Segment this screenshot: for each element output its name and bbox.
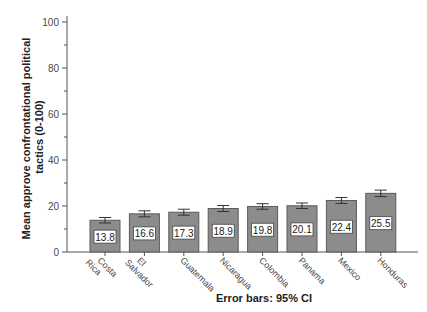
value-label: 17.3 xyxy=(174,228,194,239)
category-label: Nicaragua xyxy=(218,255,254,291)
bar-guatemala: 17.3 xyxy=(169,209,199,252)
bar-mexico: 22.4 xyxy=(326,197,356,252)
x-axis-title: Error bars: 95% CI xyxy=(216,292,312,304)
category-label: Honduras xyxy=(375,255,410,290)
y-tick-label: 0 xyxy=(53,247,59,258)
category-label: Guatemala xyxy=(178,255,216,293)
value-label: 25.5 xyxy=(371,218,391,229)
bar-chart: 020406080100 13.816.617.318.919.820.122.… xyxy=(0,0,427,312)
value-label: 20.1 xyxy=(292,224,312,235)
category-label-line: Colombia xyxy=(257,255,291,289)
category-label: Mexico xyxy=(336,255,363,282)
category-label-line: Guatemala xyxy=(178,255,216,293)
category-label: Panama xyxy=(297,255,328,286)
y-axis-title-line-2: tactics (0-100) xyxy=(33,100,45,174)
y-axis: 020406080100 xyxy=(42,16,67,258)
y-axis-title-line-1: Mean approve confrontational political xyxy=(20,38,32,240)
value-label: 16.6 xyxy=(135,228,155,239)
bars-group: 13.816.617.318.919.820.122.425.5 xyxy=(90,190,396,252)
y-tick-label: 80 xyxy=(48,63,60,74)
value-label: 22.4 xyxy=(332,222,352,233)
category-label: CostaRica xyxy=(84,250,120,286)
y-tick-label: 60 xyxy=(48,109,60,120)
category-label-line: Panama xyxy=(297,255,328,286)
category-labels: CostaRicaElSalvadorGuatemalaNicaraguaCol… xyxy=(84,250,411,293)
bar-el-salvador: 16.6 xyxy=(129,211,159,252)
bar-honduras: 25.5 xyxy=(366,190,396,252)
y-tick-label: 20 xyxy=(48,201,60,212)
category-label: Colombia xyxy=(257,255,291,289)
bar-panama: 20.1 xyxy=(287,203,317,252)
y-axis-title: Mean approve confrontational political t… xyxy=(20,35,45,240)
category-label-line: Nicaragua xyxy=(218,255,254,291)
category-label-line: Mexico xyxy=(336,255,363,282)
value-label: 19.8 xyxy=(253,225,273,236)
x-axis xyxy=(67,252,418,256)
category-label-line: Honduras xyxy=(375,255,410,290)
value-label: 13.8 xyxy=(95,232,115,243)
y-tick-label: 40 xyxy=(48,155,60,166)
bar-costa-rica: 13.8 xyxy=(90,218,120,253)
category-label: ElSalvador xyxy=(123,250,162,289)
bar-nicaragua: 18.9 xyxy=(208,206,238,252)
bar-colombia: 19.8 xyxy=(248,204,278,252)
y-tick-label: 100 xyxy=(42,17,59,28)
value-label: 18.9 xyxy=(213,226,233,237)
